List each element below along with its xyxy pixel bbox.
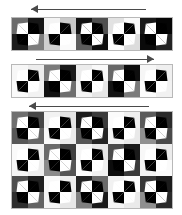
pinwheel-grid-row — [12, 112, 172, 144]
panel-middle-block — [0, 51, 182, 62]
pinwheel-cell — [108, 176, 140, 208]
pinwheel-cell — [140, 65, 172, 97]
panel-bottom-block — [0, 98, 182, 109]
pinwheel-cell — [140, 176, 172, 208]
arrow-shaft — [29, 106, 149, 107]
pinwheel-cell — [108, 65, 140, 97]
pinwheel-icon — [108, 176, 140, 208]
pinwheel-icon — [108, 18, 140, 50]
panel-top-arrow-row — [0, 0, 182, 11]
pinwheel-cell — [12, 176, 44, 208]
pinwheel-cell — [44, 144, 76, 176]
pinwheel-cell — [76, 176, 108, 208]
pinwheel-icon — [12, 112, 44, 144]
pinwheel-icon — [76, 65, 108, 97]
pinwheel-cell — [76, 18, 108, 50]
pinwheel-cell — [12, 112, 44, 144]
pinwheel-cell — [140, 18, 172, 50]
pinwheel-icon — [12, 144, 44, 176]
arrow-head — [31, 5, 38, 13]
pinwheel-cell — [44, 112, 76, 144]
pinwheel-icon — [108, 65, 140, 97]
leftward-arrow-icon — [31, 4, 146, 15]
pinwheel-cell — [108, 112, 140, 144]
pinwheel-cell — [108, 18, 140, 50]
panel-bottom — [11, 111, 173, 209]
pinwheel-icon — [140, 144, 172, 176]
pinwheel-cell — [12, 65, 44, 97]
pinwheel-cell — [76, 144, 108, 176]
pinwheel-grid-row — [12, 176, 172, 208]
pinwheel-cell — [44, 65, 76, 97]
pinwheel-icon — [44, 144, 76, 176]
panel-top — [11, 17, 173, 51]
panel-bottom-arrow-row — [0, 98, 182, 109]
panel-middle-arrow-row — [0, 51, 182, 62]
pinwheel-icon — [108, 112, 140, 144]
pinwheel-icon — [140, 176, 172, 208]
pinwheel-grid-row — [12, 144, 172, 176]
arrow-shaft — [36, 59, 154, 60]
pinwheel-cell — [140, 144, 172, 176]
pinwheel-grid-row — [12, 18, 172, 50]
pinwheel-cell — [12, 144, 44, 176]
pinwheel-icon — [44, 176, 76, 208]
panel-middle — [11, 64, 173, 98]
pinwheel-icon — [12, 65, 44, 97]
pinwheel-cell — [12, 18, 44, 50]
pinwheel-cell — [44, 176, 76, 208]
pinwheel-icon — [12, 18, 44, 50]
arrow-head — [29, 102, 36, 110]
pinwheel-icon — [76, 18, 108, 50]
pinwheel-cell — [140, 112, 172, 144]
pinwheel-icon — [140, 112, 172, 144]
arrow-shaft — [31, 9, 146, 10]
pinwheel-icon — [140, 65, 172, 97]
pinwheel-cell — [108, 144, 140, 176]
pinwheel-icon — [140, 18, 172, 50]
pinwheel-cell — [76, 112, 108, 144]
pinwheel-icon — [76, 144, 108, 176]
pinwheel-grid-row — [12, 65, 172, 97]
illusion-figure — [0, 0, 182, 215]
pinwheel-cell — [76, 65, 108, 97]
pinwheel-icon — [108, 144, 140, 176]
pinwheel-icon — [44, 65, 76, 97]
pinwheel-icon — [12, 176, 44, 208]
pinwheel-icon — [44, 18, 76, 50]
pinwheel-icon — [76, 176, 108, 208]
arrow-head — [147, 55, 154, 63]
pinwheel-icon — [44, 112, 76, 144]
pinwheel-cell — [44, 18, 76, 50]
panel-top-block — [0, 0, 182, 11]
pinwheel-icon — [76, 112, 108, 144]
